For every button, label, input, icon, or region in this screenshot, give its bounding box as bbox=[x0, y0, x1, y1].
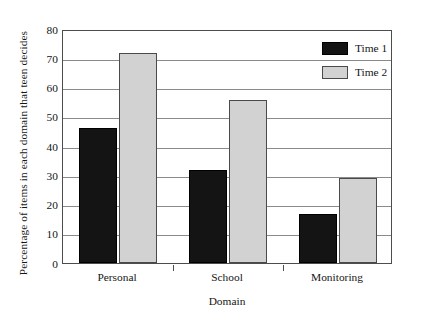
x-axis-tick-label: Monitoring bbox=[282, 270, 392, 284]
y-axis-tick-labels: 01020304050607080 bbox=[34, 24, 58, 271]
bar-personal-time-2 bbox=[119, 53, 157, 262]
y-axis-tick-label: 0 bbox=[34, 258, 58, 270]
y-axis-tick-label: 30 bbox=[34, 170, 58, 182]
x-axis-tick-label: Personal bbox=[62, 270, 172, 284]
legend-swatch-time-1 bbox=[322, 42, 348, 55]
bar-school-time-1 bbox=[189, 170, 227, 262]
bar-monitoring-time-2 bbox=[339, 178, 377, 263]
y-axis-tick-label: 10 bbox=[34, 228, 58, 240]
legend: Time 1 Time 2 bbox=[322, 36, 388, 84]
x-axis-tick-label: School bbox=[172, 270, 282, 284]
bar-school-time-2 bbox=[229, 100, 267, 262]
bar-monitoring-time-1 bbox=[299, 214, 337, 262]
y-axis-tick-label: 70 bbox=[34, 53, 58, 65]
x-axis-title: Domain bbox=[62, 295, 392, 307]
legend-item-time-2: Time 2 bbox=[322, 60, 388, 84]
y-axis-tick-label: 40 bbox=[34, 141, 58, 153]
bar-personal-time-1 bbox=[79, 128, 117, 263]
y-axis-title: Percentage of items in each domain that … bbox=[14, 19, 32, 287]
legend-label-time-1: Time 1 bbox=[355, 42, 387, 54]
y-axis-tick-label: 80 bbox=[34, 24, 58, 36]
y-axis-tick-label: 60 bbox=[34, 82, 58, 94]
x-axis-tick-labels: PersonalSchoolMonitoring bbox=[62, 270, 392, 286]
y-axis-tick-label: 20 bbox=[34, 199, 58, 211]
legend-item-time-1: Time 1 bbox=[322, 36, 388, 60]
legend-swatch-time-2 bbox=[322, 66, 348, 79]
bar-chart-figure: Percentage of items in each domain that … bbox=[0, 0, 427, 323]
y-axis-tick-label: 50 bbox=[34, 111, 58, 123]
legend-label-time-2: Time 2 bbox=[355, 66, 387, 78]
